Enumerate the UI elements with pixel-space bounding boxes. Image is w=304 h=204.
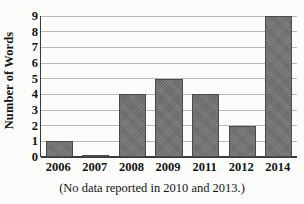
plot-area xyxy=(40,16,297,157)
y-tick-label: 9 xyxy=(22,10,38,23)
bar xyxy=(155,79,182,157)
y-tick-label: 7 xyxy=(22,41,38,54)
y-axis-title: Number of Words xyxy=(0,0,20,160)
y-tick-label: 2 xyxy=(22,119,38,132)
y-tick-label: 6 xyxy=(22,57,38,70)
y-tick-label: 3 xyxy=(22,104,38,117)
x-tick-label: 2008 xyxy=(119,160,144,174)
y-tick-label: 4 xyxy=(22,88,38,101)
y-tick-label: 0 xyxy=(22,151,38,164)
y-tick-label: 8 xyxy=(22,25,38,38)
bar xyxy=(192,94,219,157)
x-tick-label: 2014 xyxy=(265,160,290,174)
x-tick-label: 2011 xyxy=(192,160,216,174)
y-tick-label: 5 xyxy=(22,72,38,85)
bar-chart: Number of Words 0123456789 2006200720082… xyxy=(0,0,304,204)
bar xyxy=(265,16,292,157)
x-tick-label: 2012 xyxy=(229,160,254,174)
y-axis-tick-labels: 0123456789 xyxy=(22,10,38,158)
bar xyxy=(119,94,146,157)
chart-caption: (No data reported in 2010 and 2013.) xyxy=(0,181,304,195)
x-tick-label: 2009 xyxy=(156,160,181,174)
bars-layer xyxy=(41,16,297,157)
y-tick-label: 1 xyxy=(22,135,38,148)
bar xyxy=(229,126,256,157)
bar xyxy=(46,141,73,157)
bar xyxy=(82,155,109,157)
x-axis-tick-labels: 2006200720082009201120122014 xyxy=(40,160,296,178)
x-tick-label: 2007 xyxy=(82,160,107,174)
y-axis-title-label: Number of Words xyxy=(3,31,18,129)
x-tick-label: 2006 xyxy=(46,160,71,174)
